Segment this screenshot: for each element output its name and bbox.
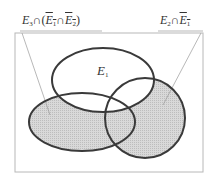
label-e2-complement: E2 <box>65 13 76 27</box>
label-e1: E <box>180 13 187 27</box>
set-e1-sub: 1 <box>105 71 109 79</box>
label-e1-sub: 1 <box>187 20 191 28</box>
set-e1-letter: E <box>97 63 105 78</box>
label-e1-complement: E1 <box>180 13 191 27</box>
callout-label-right: E2∩E1 <box>160 14 190 28</box>
label-close-paren: ) <box>76 13 80 27</box>
callout-label-left: E3∩(E1∩E2) <box>22 14 80 28</box>
label-op-intersect-2: ∩ <box>56 13 65 27</box>
label-e1: E <box>46 13 53 27</box>
label-op-intersect: ∩( <box>33 13 46 27</box>
label-e1-complement: E1 <box>46 13 57 27</box>
set-e1-label: E1 <box>97 64 108 79</box>
label-op-intersect: ∩ <box>171 13 180 27</box>
